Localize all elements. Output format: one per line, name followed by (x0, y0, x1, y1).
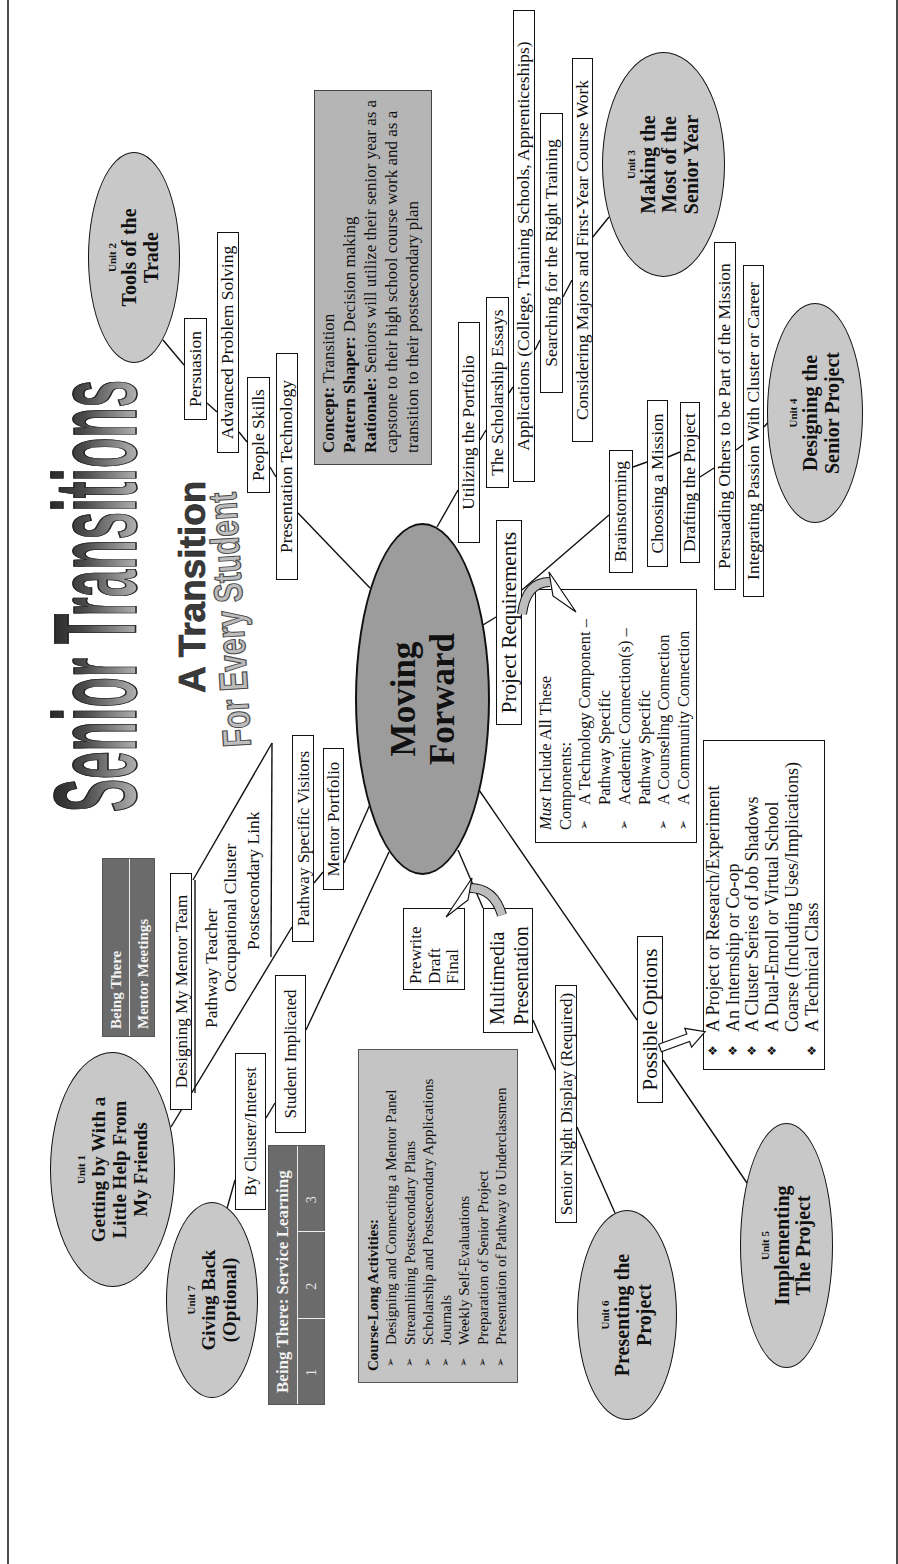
topic-label: Searching for the Right Training (543, 139, 561, 366)
unit-6-title: Presenting the Project (612, 1254, 655, 1376)
concept-label: Concept: (319, 387, 338, 453)
callout-postsecondary-link: Postsecondary Link (244, 811, 262, 950)
activity-item: ➢Weekly Self-Evaluations (455, 1050, 473, 1371)
service-learning-cell: 2 (298, 1232, 325, 1318)
callout-occupational-cluster: Occupational Cluster (221, 844, 239, 992)
unit-3-title: Making the Most of the Senior Year (638, 115, 703, 214)
activity-item: ➢Preparation of Senior Project (474, 1050, 492, 1371)
multimedia-presentation-box: Multimedia Presentation (483, 908, 533, 1033)
center-oval-moving-forward: Moving Forward (355, 523, 490, 875)
unit-3-oval: Unit 3 Making the Most of the Senior Yea… (602, 52, 725, 277)
project-requirements-label: Project Requirements (499, 532, 520, 713)
activity-text: Designing and Connecting a Mentor Panel (382, 1090, 400, 1345)
requirement-item: ➢A Community Connection (674, 594, 694, 830)
arrow-bullet-icon: ➢ (492, 1345, 510, 1371)
topic-label: Presentation Technology (278, 380, 296, 553)
topic-label: Mentor Portfolio (325, 762, 342, 877)
possible-options-box: Possible Options (637, 936, 663, 1103)
requirement-text: A Technology Component – Pathway Specifi… (575, 619, 614, 805)
mentor-meetings-box: Being There Mentor Meetings (102, 858, 155, 1037)
senior-night-display-box: Senior Night Display (Required) (555, 985, 577, 1223)
service-learning-cell: 1 (298, 1319, 325, 1404)
unit-6-oval: Unit 6 Presenting the Project (577, 1210, 677, 1420)
diamond-bullet-icon: ❖ (724, 1032, 744, 1056)
option-item: ❖A Project or Research/Experiment (704, 741, 724, 1056)
topic-label: Persuasion (187, 331, 205, 407)
topic-applications: Applications (College, Training Schools,… (513, 10, 535, 482)
unit-3-number: Unit 3 (625, 150, 638, 179)
topic-advanced-problem-solving: Advanced Problem Solving (217, 232, 239, 453)
topic-people-skills: People Skills (247, 377, 270, 493)
activity-item: ➢Scholarship and Postsecondary Applicati… (419, 1050, 437, 1371)
topic-pathway-specific-visitors: Pathway Specific Visitors (292, 735, 314, 942)
arrow-bullet-icon: ➢ (455, 1345, 473, 1371)
unit-5-number: Unit 5 (759, 1231, 772, 1260)
pattern-shaper-line: Pattern Shaper: Decision making (339, 73, 360, 453)
arrow-bullet-icon: ➢ (382, 1345, 400, 1371)
diamond-bullet-icon: ❖ (803, 1032, 823, 1056)
title-senior-transitions: Senior Transitions (38, 380, 154, 812)
option-text: A Project or Research/Experiment (704, 786, 724, 1032)
drafts-text: Prewrite Draft Final (406, 926, 462, 984)
diamond-bullet-icon: ❖ (743, 1032, 763, 1056)
topic-designing-mentor-team: Designing My Mentor Team (170, 873, 192, 1110)
service-learning-table: Being There: Service Learning 1 2 3 (268, 1145, 325, 1405)
unit-7-oval: Unit 7 Giving Back (Optional) (166, 1202, 258, 1398)
requirement-item: ➢A Counseling Connection (654, 594, 674, 830)
project-requirements-box: Project Requirements (496, 520, 522, 725)
diamond-bullet-icon: ❖ (704, 1032, 724, 1056)
service-learning-header: Being There: Service Learning (269, 1146, 297, 1404)
activity-item: ➢Streamlining Postsecondary Plans (401, 1050, 419, 1371)
activity-text: Streamlining Postsecondary Plans (401, 1141, 419, 1345)
service-learning-cells: 1 2 3 (297, 1146, 325, 1404)
option-text: An Internship or Co-op (724, 864, 744, 1032)
service-learning-cell: 3 (298, 1146, 325, 1232)
topic-label: Drafting the Project (681, 413, 699, 552)
activity-item: ➢Presentation of Pathway to Underclassme… (492, 1050, 510, 1371)
topic-utilizing-portfolio: Utilizing the Portfolio (458, 322, 480, 543)
diagram-page: Senior Transitions A Transition For Ever… (0, 0, 898, 1564)
topic-persuading-others: Persuading Others to be Part of the Miss… (714, 242, 736, 590)
activity-text: Journals (437, 1295, 455, 1345)
requirement-text: A Counseling Connection (654, 635, 674, 806)
topic-scholarship-essays: The Scholarship Essays (486, 297, 509, 488)
topic-label: Integrating Passion With Cluster or Care… (745, 282, 763, 580)
topic-choosing-mission: Choosing a Mission (647, 400, 668, 567)
activity-text: Scholarship and Postsecondary Applicatio… (419, 1079, 437, 1345)
multimedia-presentation-text: Multimedia Presentation (486, 926, 532, 1025)
topic-label: Pathway Specific Visitors (295, 751, 312, 926)
requirement-text: Academic Connection(s) – Pathway Specifi… (615, 628, 654, 805)
option-text: A Cluster Series of Job Shadows (743, 797, 763, 1033)
unit-7-title: Giving Back (Optional) (198, 1250, 240, 1351)
option-item: ❖An Internship or Co-op (724, 741, 744, 1056)
requirement-text: A Community Connection (674, 631, 694, 805)
topic-label: Considering Majors and First-Year Course… (574, 80, 592, 420)
topic-student-implicated: Student Implicated (275, 975, 306, 1133)
options-list-box: ❖A Project or Research/Experiment ❖An In… (703, 740, 825, 1070)
activity-item: ➢Journals (437, 1050, 455, 1371)
requirement-item: ➢Academic Connection(s) – Pathway Specif… (615, 594, 654, 830)
topic-label: Persuading Others to be Part of the Miss… (716, 263, 734, 569)
topic-considering-majors: Considering Majors and First-Year Course… (572, 58, 593, 442)
activity-text: Weekly Self-Evaluations (455, 1196, 473, 1345)
topic-label: Designing My Mentor Team (173, 895, 190, 1089)
senior-night-label: Senior Night Display (Required) (558, 993, 575, 1215)
rationale-label: Rationale: (361, 377, 380, 453)
topic-persuasion: Persuasion (184, 318, 207, 420)
topic-label: Choosing a Mission (649, 413, 667, 553)
requirements-box: Must Include All These Components: ➢A Te… (535, 589, 697, 843)
course-long-activities-box: Course-Long Activities: ➢Designing and C… (358, 1049, 518, 1383)
course-long-title: Course-Long Activities: (365, 1219, 381, 1371)
topic-brainstorming: Brainstorming (609, 450, 633, 573)
arrow-bullet-icon: ➢ (575, 805, 595, 830)
rationale-line: Rationale: Seniors will utilize their se… (360, 73, 423, 453)
pattern-shaper-value: Decision making (340, 216, 359, 332)
topic-searching-training: Searching for the Right Training (540, 113, 563, 393)
option-item: ❖A Dual-Enroll or Virtual School Coarse … (763, 741, 802, 1056)
unit-5-oval: Unit 5 Implementing The Project (740, 1123, 833, 1368)
topic-drafting-project: Drafting the Project (680, 402, 700, 563)
topic-label: Advanced Problem Solving (219, 246, 237, 439)
concept-box: Concept: Transition Pattern Shaper: Deci… (314, 90, 432, 465)
option-item: ❖A Cluster Series of Job Shadows (743, 741, 763, 1056)
activity-item: ➢Designing and Connecting a Mentor Panel (382, 1050, 400, 1371)
